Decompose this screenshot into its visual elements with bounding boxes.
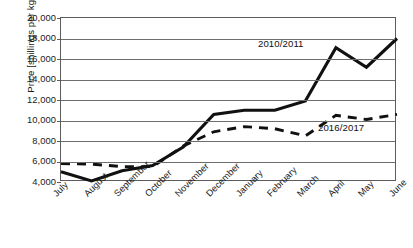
x-axis-tick-label: August: [82, 171, 110, 199]
x-axis-tick-labels: JulyAugustSeptemberOctoberNovemberDecemb…: [0, 0, 413, 248]
x-axis-tick-label: March: [295, 173, 321, 199]
x-axis-tick-label: February: [265, 165, 299, 199]
line-chart: Price [shillings per kg] 20,00018,00016,…: [0, 0, 413, 248]
x-axis-tick-label: October: [143, 168, 174, 199]
x-axis-tick-label: June: [387, 177, 409, 199]
x-axis-tick-label: May: [357, 179, 377, 199]
x-axis-tick-label: July: [51, 180, 71, 200]
x-axis-tick-label: January: [234, 168, 265, 199]
x-axis-tick-label: April: [326, 178, 347, 199]
